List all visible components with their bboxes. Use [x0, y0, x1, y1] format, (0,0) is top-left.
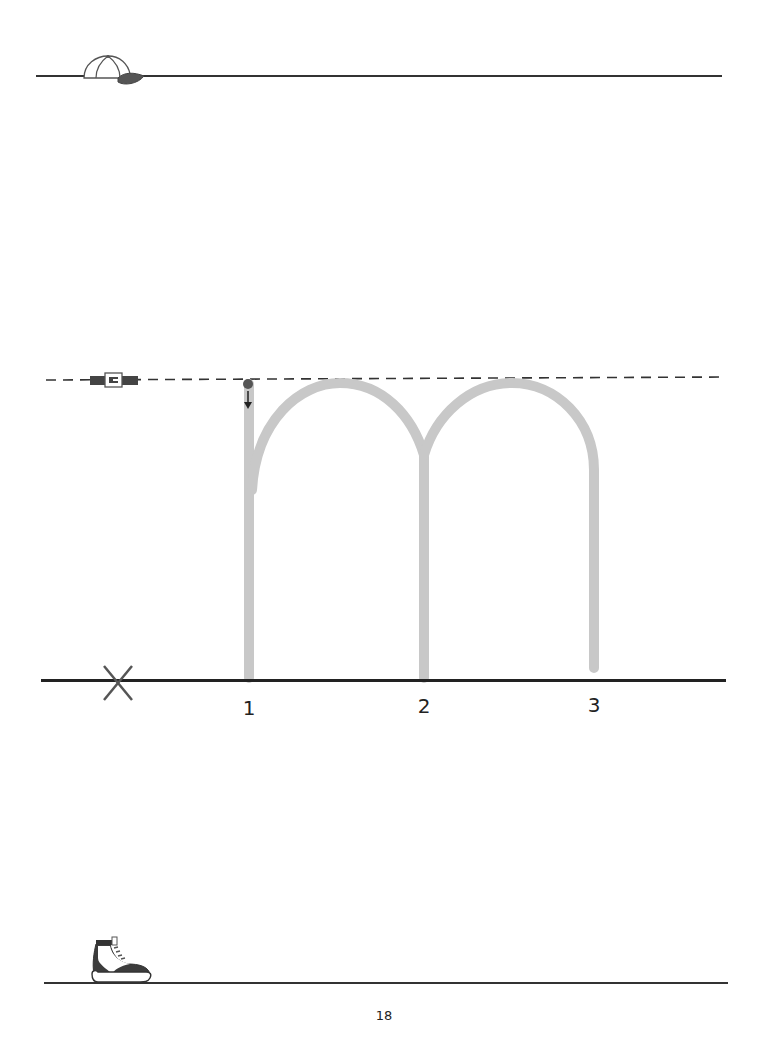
stroke-number-2: 2	[409, 694, 439, 718]
x-mark-icon	[102, 664, 134, 702]
stroke-number-3: 3	[579, 693, 609, 717]
page-number: 18	[364, 1008, 404, 1023]
stroke-2-arch	[252, 383, 424, 678]
stroke-number-1: 1	[234, 696, 264, 720]
letter-m-trace	[0, 0, 763, 1042]
baseline	[41, 679, 726, 682]
shoe-icon	[88, 934, 154, 986]
stroke-3-arch	[424, 383, 594, 668]
start-dot	[243, 379, 253, 389]
